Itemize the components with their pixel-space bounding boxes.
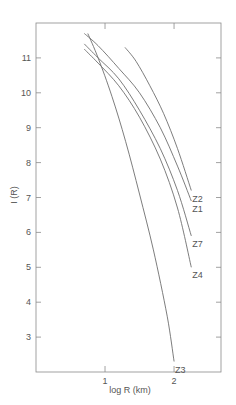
x-axis-ticks: 12: [103, 23, 177, 386]
y-tick-label: 8: [26, 158, 31, 168]
curves: [84, 34, 191, 362]
y-tick-label: 5: [26, 262, 31, 272]
y-axis-label: I (R): [9, 186, 19, 204]
curve-label-z2: Z2: [192, 194, 203, 204]
curve-label-z7: Z7: [192, 239, 203, 249]
curve-label-z1: Z1: [192, 204, 203, 214]
y-tick-label: 6: [26, 227, 31, 237]
chart: 34567891011 12 log R (km) I (R) Z2Z1Z7Z4…: [0, 0, 236, 405]
curve-z2: [125, 47, 191, 190]
curve-z4: [84, 49, 191, 267]
curve-z1: [84, 34, 191, 202]
y-tick-label: 3: [26, 332, 31, 342]
x-axis-label: log R (km): [109, 385, 151, 395]
y-tick-label: 4: [26, 297, 31, 307]
y-tick-label: 7: [26, 193, 31, 203]
curve-label-z3: Z3: [175, 365, 186, 375]
y-tick-label: 10: [21, 88, 31, 98]
y-axis-ticks: 34567891011: [21, 53, 221, 342]
x-tick-label: 1: [103, 376, 108, 386]
curve-label-z4: Z4: [192, 270, 203, 280]
x-tick-label: 2: [172, 376, 177, 386]
curve-z3: [88, 34, 174, 362]
y-tick-label: 11: [22, 53, 31, 63]
y-tick-label: 9: [26, 123, 31, 133]
curve-labels: Z2Z1Z7Z4Z3: [175, 194, 203, 375]
curve-z7: [84, 44, 191, 236]
